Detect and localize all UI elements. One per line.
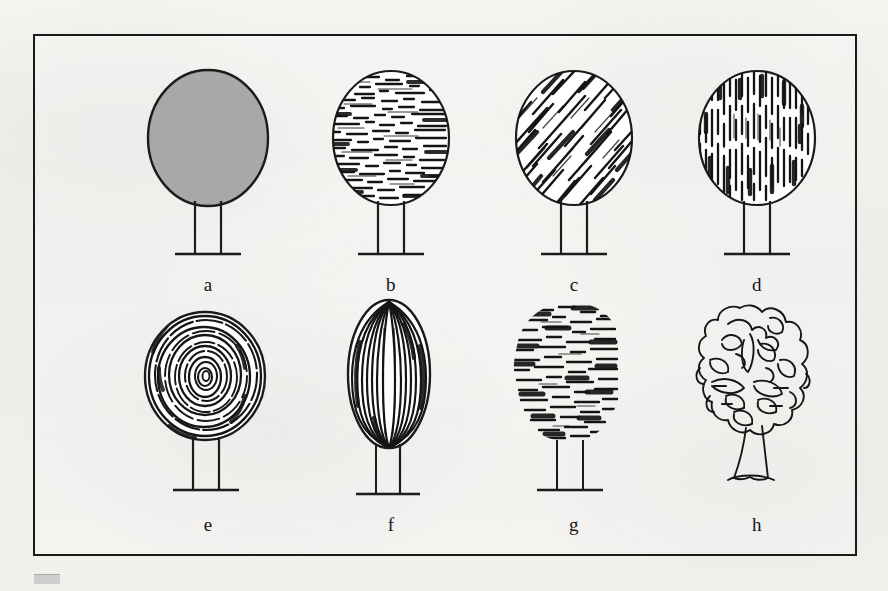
tree-b-drawing <box>300 58 482 276</box>
tree-d-label: d <box>666 274 848 296</box>
tree-figure-f: f <box>300 298 482 548</box>
tree-d-drawing <box>666 58 848 276</box>
tree-figure-e: e <box>117 298 299 548</box>
tree-a-drawing <box>117 58 299 276</box>
tree-figure-a: a <box>117 58 299 308</box>
tree-f-label: f <box>300 514 482 536</box>
tree-figure-b: b <box>300 58 482 308</box>
tree-h-label: h <box>666 514 848 536</box>
tree-g-drawing <box>483 298 665 516</box>
tree-e-drawing <box>117 298 299 516</box>
tree-e-label: e <box>117 514 299 536</box>
tree-b-label: b <box>300 274 482 296</box>
tree-figure-c: c <box>483 58 665 308</box>
tree-grid: a <box>35 36 855 554</box>
tree-a-label: a <box>117 274 299 296</box>
tree-h-drawing <box>666 298 848 516</box>
tree-g-label: g <box>483 514 665 536</box>
tree-c-label: c <box>483 274 665 296</box>
caption-marker <box>34 574 60 584</box>
tree-figure-h: h <box>666 298 848 548</box>
tree-c-drawing <box>483 58 665 276</box>
tree-f-drawing <box>300 298 482 516</box>
figure-frame: a <box>33 34 857 556</box>
tree-figure-d: d <box>666 58 848 308</box>
tree-figure-g: g <box>483 298 665 548</box>
